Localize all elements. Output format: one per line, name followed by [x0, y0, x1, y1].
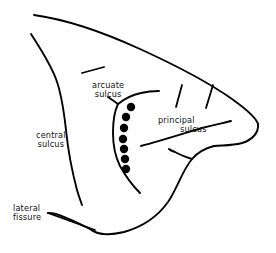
superior-tick-mark-line	[82, 67, 104, 73]
cortical-outline-occipital-pole	[214, 124, 258, 146]
principal-sulcus-label-line2: sulcus	[180, 125, 207, 134]
lateral-fissure-leader-line	[48, 213, 95, 230]
posterior-tick-mark-2-line	[206, 85, 213, 108]
cortical-outline-ventral-posterior	[90, 146, 214, 234]
recording-site-dot	[121, 155, 129, 163]
recording-site-dot	[120, 145, 128, 153]
central-sulcus-label: central sulcus	[36, 131, 66, 150]
recording-site-dot	[122, 165, 130, 173]
cortical-outline-dorsal	[34, 15, 258, 124]
cortical-outline-sylvian-notch	[169, 149, 192, 159]
posterior-tick-mark-1-line	[176, 85, 182, 107]
recording-site-dot	[120, 124, 128, 132]
recording-site-dot	[127, 103, 135, 111]
recording-site-dot	[119, 135, 127, 143]
arcuate-sulcus-label-line2: sulcus	[92, 90, 124, 99]
brain-diagram-canvas	[0, 0, 276, 253]
brain-diagram-figure: arcuate sulcus central sulcus principal …	[0, 0, 276, 253]
recording-site-dot-group	[119, 103, 135, 173]
lateral-fissure-label-line2: fissure	[13, 213, 41, 222]
recording-site-dot	[122, 113, 130, 121]
arcuate-sulcus-label: arcuate sulcus	[92, 81, 124, 100]
principal-sulcus-label: principal sulcus	[158, 116, 207, 135]
lateral-fissure-label: lateral fissure	[13, 204, 41, 223]
central-sulcus-line	[31, 34, 82, 205]
central-sulcus-label-line2: sulcus	[36, 140, 66, 149]
